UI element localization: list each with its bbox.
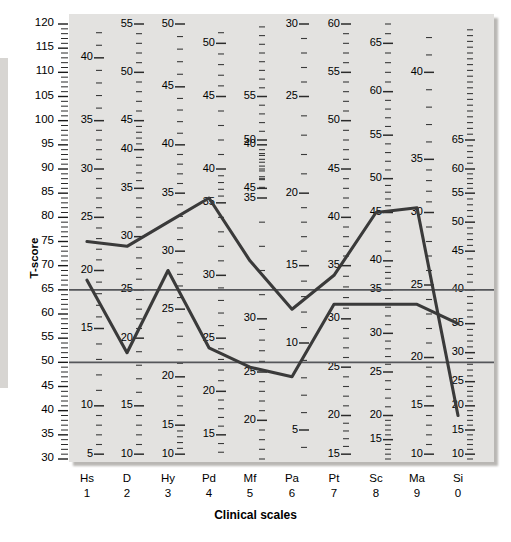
raw-score-ticks xyxy=(94,24,475,459)
y-axis-ticks xyxy=(58,24,68,459)
reference-lines xyxy=(69,290,494,363)
chart-overlay xyxy=(0,0,511,542)
profile-lines xyxy=(87,198,458,416)
mmpi-profile-chart: T-score Clinical scales 1201151101051009… xyxy=(0,0,511,542)
